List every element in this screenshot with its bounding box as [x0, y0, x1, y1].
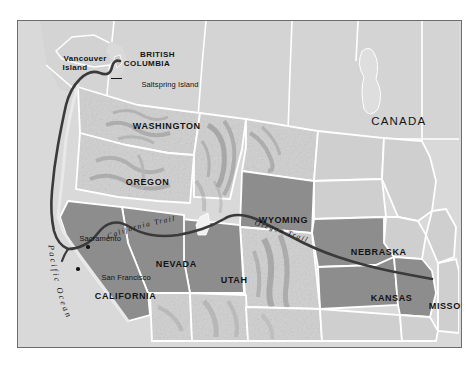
state-arkansas: [320, 309, 402, 341]
map-frame: California Trail Oregon Trail Pacific Oc…: [17, 20, 462, 348]
state-wyoming: [240, 171, 314, 233]
state-illinois: [438, 259, 459, 333]
state-south-dakota: [314, 179, 386, 219]
state-new-mexico: [190, 293, 248, 341]
map-figure: California Trail Oregon Trail Pacific Oc…: [0, 0, 473, 369]
state-oklahoma: [246, 307, 322, 341]
state-nebraska: [312, 217, 394, 267]
state-north-dakota: [314, 131, 384, 181]
saltspring-leader-line: [111, 78, 122, 79]
san-francisco-dot: [76, 267, 80, 271]
map-graphic: California Trail Oregon Trail Pacific Oc…: [18, 21, 459, 345]
sacramento-dot: [86, 245, 90, 249]
state-utah: [182, 219, 244, 293]
